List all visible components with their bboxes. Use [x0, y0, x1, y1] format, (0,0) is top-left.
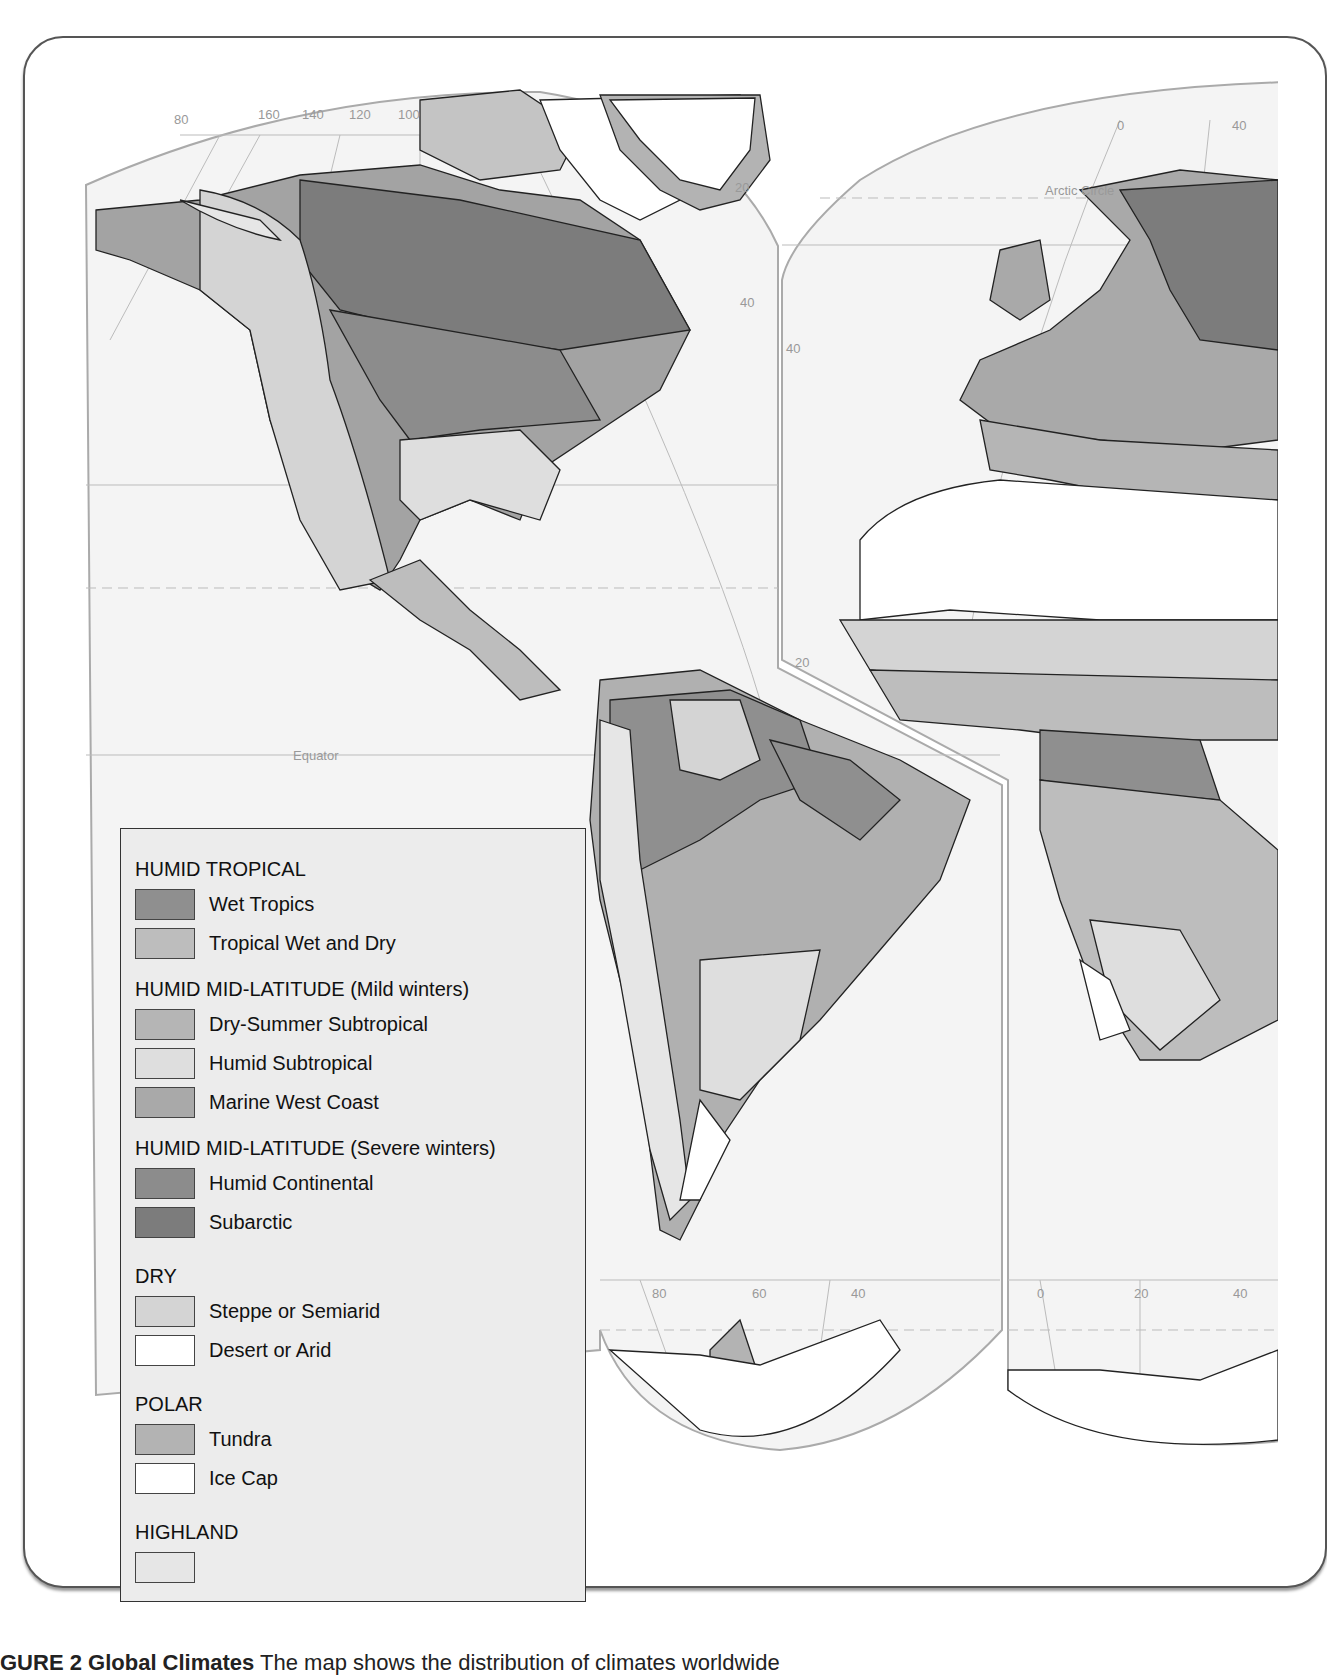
legend-item: Subarctic — [135, 1203, 585, 1242]
legend-label: Humid Subtropical — [209, 1052, 372, 1075]
lon-label: 0 — [1037, 1286, 1044, 1301]
legend-label: Steppe or Semiarid — [209, 1300, 380, 1323]
legend-group-humid-tropical: HUMID TROPICAL Wet Tropics Tropical Wet … — [135, 857, 585, 963]
lon-label: 140 — [302, 107, 324, 122]
lon-label: 40 — [1233, 1286, 1247, 1301]
legend-label: Dry-Summer Subtropical — [209, 1013, 428, 1036]
legend-label: Ice Cap — [209, 1467, 278, 1490]
legend-group-polar: POLAR Tundra Ice Cap — [135, 1392, 585, 1498]
legend-item: Marine West Coast — [135, 1083, 585, 1122]
lon-label: 40 — [851, 1286, 865, 1301]
legend-item: Humid Continental — [135, 1164, 585, 1203]
lon-label: 40 — [1232, 118, 1246, 133]
legend-item: Wet Tropics — [135, 885, 585, 924]
legend-swatch-humid-continental — [135, 1168, 195, 1199]
legend-group-title: HIGHLAND — [135, 1520, 585, 1544]
legend-group-title: HUMID MID-LATITUDE (Severe winters) — [135, 1136, 585, 1160]
legend-swatch-humid-subtropical — [135, 1048, 195, 1079]
lon-label: 120 — [349, 107, 371, 122]
legend-group-title: POLAR — [135, 1392, 585, 1416]
legend-item: Dry-Summer Subtropical — [135, 1005, 585, 1044]
lat-label: 40 — [740, 295, 754, 310]
legend-swatch-highland — [135, 1552, 195, 1583]
legend-swatch-ice-cap — [135, 1463, 195, 1494]
legend-swatch-steppe — [135, 1296, 195, 1327]
legend-swatch-marine-west-coast — [135, 1087, 195, 1118]
caption-title: Global Climates — [88, 1650, 254, 1675]
legend-group-highland: HIGHLAND — [135, 1520, 585, 1587]
legend-label: Tundra — [209, 1428, 272, 1451]
legend-item: Humid Subtropical — [135, 1044, 585, 1083]
legend-group-title: HUMID TROPICAL — [135, 857, 585, 881]
lat-label: 20 — [795, 655, 809, 670]
lon-label: 100 — [398, 107, 420, 122]
lat-label: 40 — [786, 341, 800, 356]
lon-label: 80 — [652, 1286, 666, 1301]
lon-label: 20 — [1134, 1286, 1148, 1301]
legend-swatch-wet-tropics — [135, 889, 195, 920]
legend-label: Wet Tropics — [209, 893, 314, 916]
legend-swatch-tropical-wet-dry — [135, 928, 195, 959]
lat-label: 20 — [735, 180, 749, 195]
legend-label: Tropical Wet and Dry — [209, 932, 396, 955]
legend-group-mild-winters: HUMID MID-LATITUDE (Mild winters) Dry-Su… — [135, 977, 585, 1122]
legend-label: Subarctic — [209, 1211, 292, 1234]
legend-swatch-subarctic — [135, 1207, 195, 1238]
legend-item: Desert or Arid — [135, 1331, 585, 1370]
lon-label: 60 — [752, 1286, 766, 1301]
legend-item — [135, 1548, 585, 1587]
legend-group-dry: DRY Steppe or Semiarid Desert or Arid — [135, 1264, 585, 1370]
equator-label: Equator — [293, 748, 339, 763]
legend-label: Humid Continental — [209, 1172, 374, 1195]
legend-group-title: DRY — [135, 1264, 585, 1288]
caption-prefix: GURE 2 — [0, 1650, 82, 1675]
legend-item: Tropical Wet and Dry — [135, 924, 585, 963]
legend-group-title: HUMID MID-LATITUDE (Mild winters) — [135, 977, 585, 1001]
legend-item: Tundra — [135, 1420, 585, 1459]
map-legend: HUMID TROPICAL Wet Tropics Tropical Wet … — [120, 828, 586, 1602]
legend-item: Ice Cap — [135, 1459, 585, 1498]
figure-caption: GURE 2 Global Climates The map shows the… — [0, 1650, 780, 1676]
legend-swatch-tundra — [135, 1424, 195, 1455]
legend-group-severe-winters: HUMID MID-LATITUDE (Severe winters) Humi… — [135, 1136, 585, 1242]
lon-label: 80 — [174, 112, 188, 127]
legend-label: Desert or Arid — [209, 1339, 331, 1362]
lon-label: 160 — [258, 107, 280, 122]
arctic-circle-label: Arctic Circle — [1045, 183, 1114, 198]
lon-label: 0 — [1117, 118, 1124, 133]
caption-text: The map shows the distribution of climat… — [260, 1650, 780, 1675]
legend-item: Steppe or Semiarid — [135, 1292, 585, 1331]
legend-label: Marine West Coast — [209, 1091, 379, 1114]
legend-swatch-dry-summer-subtropical — [135, 1009, 195, 1040]
legend-swatch-desert — [135, 1335, 195, 1366]
